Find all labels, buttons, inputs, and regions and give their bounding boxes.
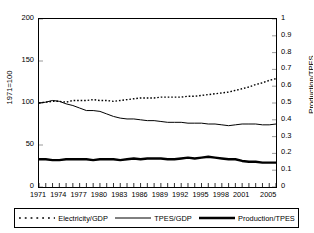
legend-swatch-thin-solid [114,214,152,222]
legend-item: Production/TPES [198,214,295,223]
y-axis-right-title: Production/TPES [307,50,314,120]
y-axis-right-tick-label: 0.6 [281,81,307,89]
y-axis-right-tick-label: 0.8 [281,48,307,56]
chart-figure: 050100150200 00.10.20.30.40.50.60.70.80.… [0,0,313,233]
series-line-electricity-gdp [39,79,276,103]
chart-legend: Electricity/GDPTPES/GDPProduction/TPES [14,208,299,228]
legend-item: TPES/GDP [114,214,191,223]
y-axis-left-tick-label: 0 [8,182,34,190]
y-axis-right-tick-label: 0.2 [281,148,307,156]
x-axis-tick-label: 2001 [228,191,254,199]
legend-label: Production/TPES [238,214,295,223]
x-axis-tick-marks [39,183,276,187]
chart-svg [39,19,276,187]
y-axis-right-tick-label: 0.9 [281,31,307,39]
legend-swatch-thick-solid [198,214,236,222]
y-axis-left-title: 1971=100 [5,58,14,118]
legend-label: Electricity/GDP [58,214,108,223]
y-axis-left-tick-label: 50 [8,140,34,148]
series-line-tpes-gdp [39,100,276,125]
y-axis-right-tick-label: 0 [281,182,307,190]
y-axis-right-tick-label: 0.5 [281,98,307,106]
legend-item: Electricity/GDP [18,214,108,223]
y-axis-right-tick-label: 0.3 [281,132,307,140]
legend-label: TPES/GDP [154,214,191,223]
series-line-production-tpes [39,157,276,163]
y-axis-right-tick-label: 0.4 [281,115,307,123]
y-axis-right-tick-label: 0.1 [281,165,307,173]
y-axis-right-tick-label: 1 [281,14,307,22]
x-axis-tick-label: 2005 [255,191,281,199]
y-axis-right-tick-label: 0.7 [281,64,307,72]
plot-area [38,18,277,188]
y-axis-left-tick-label: 200 [8,14,34,22]
legend-swatch-dotted [18,214,56,222]
